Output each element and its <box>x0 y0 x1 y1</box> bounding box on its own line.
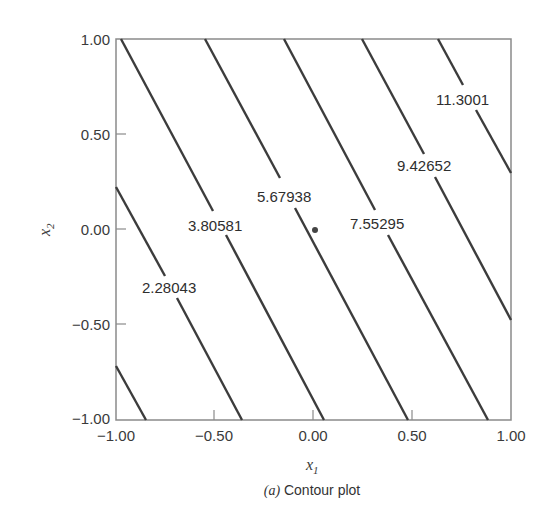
x-tick-label: 1.00 <box>496 427 525 444</box>
contour-label: 11.3001 <box>436 91 489 108</box>
figure-caption: (a) Contour plot <box>264 482 361 499</box>
contour-line <box>205 39 280 178</box>
contour-label: 9.42652 <box>397 157 451 174</box>
contour-line <box>226 235 324 420</box>
x-axis: −1.00 −0.50 0.00 0.50 1.00 <box>97 410 526 444</box>
stationary-point-marker <box>312 227 318 233</box>
y-tick-label: −0.50 <box>72 316 110 333</box>
x-tick-label: −1.00 <box>97 427 135 444</box>
contour-line <box>121 39 213 211</box>
y-tick-label: 1.00 <box>81 31 110 48</box>
contour-line <box>388 235 488 420</box>
contour-line <box>284 39 375 210</box>
x-tick-label: −0.50 <box>195 427 233 444</box>
y-tick-label: 0.00 <box>81 221 110 238</box>
contour-label: 3.80581 <box>188 217 242 234</box>
contour-labels: 2.28043 3.80581 5.67938 7.55295 9.42652 … <box>142 91 489 296</box>
contour-plot: 1.00 0.50 0.00 −0.50 −1.00 −1.00 −0.50 0… <box>0 0 553 520</box>
y-tick-label: 0.50 <box>81 126 110 143</box>
contour-label: 7.55295 <box>350 215 404 232</box>
y-axis-title: x2 <box>36 223 56 237</box>
contour-line <box>116 187 165 276</box>
contour-line <box>438 39 463 85</box>
contour-line <box>177 298 242 420</box>
contour-line <box>435 177 511 320</box>
contour-line <box>476 110 511 173</box>
y-tick-label: −1.00 <box>72 410 110 427</box>
x-axis-title: x1 <box>305 456 319 476</box>
contour-line <box>362 39 424 154</box>
contour-label: 5.67938 <box>257 188 311 205</box>
contour-label: 2.28043 <box>142 279 196 296</box>
x-tick-label: 0.00 <box>298 427 327 444</box>
x-tick-label: 0.50 <box>397 427 426 444</box>
contour-line <box>116 366 146 420</box>
